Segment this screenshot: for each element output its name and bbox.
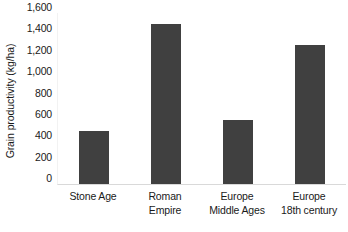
bar-slot: [202, 13, 274, 184]
y-axis-tick-label: 1,000: [16, 65, 52, 77]
y-axis-tick-label: 1,600: [16, 1, 52, 13]
y-axis-title: Grain productivity (kg/ha): [3, 6, 17, 196]
x-axis-category-label: Roman Empire: [129, 190, 201, 217]
y-axis-tick-labels: 1,6001,4001,2001,0008006004002000: [16, 7, 52, 191]
bar-slot: [274, 13, 346, 184]
bar-slot: [58, 13, 130, 184]
y-axis-tick-label: 1,400: [16, 22, 52, 34]
bars-layer: [58, 13, 346, 184]
bar[interactable]: [295, 45, 325, 184]
bar[interactable]: [223, 120, 253, 184]
y-axis-tick-label: 600: [16, 108, 52, 120]
bar-slot: [130, 13, 202, 184]
plot-area: [57, 13, 346, 185]
y-axis-tick-label: 400: [16, 129, 52, 141]
y-axis-tick-label: 0: [16, 172, 52, 184]
x-axis-category-labels: Stone AgeRoman EmpireEurope Middle AgesE…: [57, 190, 345, 217]
x-axis-category-label: Stone Age: [57, 190, 129, 217]
y-axis-tick-label: 1,200: [16, 44, 52, 56]
bar[interactable]: [151, 24, 181, 184]
bar-chart: Grain productivity (kg/ha) 1,6001,4001,2…: [0, 0, 348, 232]
y-axis-tick-label: 200: [16, 151, 52, 163]
bar[interactable]: [79, 131, 109, 184]
x-axis-category-label: Europe Middle Ages: [201, 190, 273, 217]
y-axis-tick-label: 800: [16, 87, 52, 99]
x-axis-category-label: Europe 18th century: [273, 190, 345, 217]
